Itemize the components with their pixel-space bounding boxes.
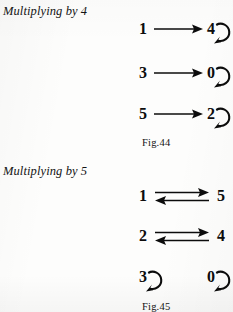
arrow-right-icon (137, 105, 207, 139)
arrow-right-icon (137, 64, 207, 98)
figure-caption: Fig.44 (142, 137, 170, 148)
self-loop-arrow-icon (213, 106, 233, 136)
mapping-target-node: 5 (215, 187, 227, 204)
self-loop-arrow-icon (213, 21, 233, 51)
arrow-bidirectional-icon (137, 187, 217, 221)
scanned-page: Multiplying by 4 1 4 3 0 5 (0, 0, 233, 312)
figure-caption: Fig.45 (142, 301, 170, 312)
self-loop-arrow-icon (213, 269, 233, 299)
self-loop-arrow-icon (213, 65, 233, 95)
arrow-bidirectional-icon (137, 227, 217, 261)
arrow-right-icon (137, 20, 207, 54)
section-title-multiplying-by-5: Multiplying by 5 (3, 164, 87, 179)
self-loop-arrow-icon (145, 269, 171, 299)
mapping-target-node: 4 (215, 227, 227, 244)
section-title-multiplying-by-4: Multiplying by 4 (3, 4, 87, 19)
